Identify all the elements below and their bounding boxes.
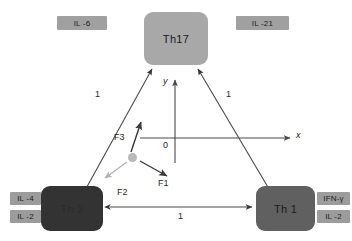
- cytokine-il2-right-label: IL -2: [325, 212, 342, 221]
- cytokine-il21-label: IL -21: [252, 19, 273, 28]
- node-th1[interactable]: Th 1: [256, 186, 315, 231]
- edge-label-th1-th17: 1: [226, 89, 231, 99]
- vector-label-f3: F3: [114, 132, 125, 142]
- axis-origin-label: 0: [163, 140, 168, 150]
- cytokine-il21: IL -21: [236, 16, 289, 30]
- cytokine-il4: IL -4: [10, 192, 41, 205]
- vector-label-f1-text: F1: [158, 178, 169, 188]
- node-th1-label: Th 1: [274, 203, 297, 215]
- axis-label-x: x: [296, 130, 301, 140]
- cytokine-ifn-gamma: IFN-γ: [317, 192, 350, 205]
- vector-f2: [105, 162, 127, 178]
- vector-label-f2-text: F2: [117, 187, 128, 197]
- edge-label-th2-th1: 1: [178, 211, 183, 221]
- cytokine-il6-label: IL -6: [74, 19, 91, 28]
- cytokine-il2-left-label: IL -2: [17, 212, 34, 221]
- cytokine-il6: IL -6: [57, 16, 107, 30]
- vector-label-f3-text: F3: [114, 132, 125, 142]
- cytokine-ifn-gamma-label: IFN-γ: [323, 194, 344, 203]
- axis-x-text: x: [296, 130, 301, 140]
- cytokine-il2-right: IL -2: [317, 210, 350, 223]
- axis-origin-text: 0: [163, 140, 168, 150]
- node-th2[interactable]: Th 2: [41, 186, 103, 231]
- cytokine-il2-left: IL -2: [10, 210, 41, 223]
- edge-label-th2-th17: 1: [95, 89, 100, 99]
- axis-label-y: y: [163, 76, 168, 86]
- cytokine-il4-label: IL -4: [17, 194, 34, 203]
- vector-label-f1: F1: [158, 178, 169, 188]
- vector-f3: [131, 122, 141, 152]
- node-th17-label: Th17: [163, 33, 189, 45]
- edge-label-th2-th1-text: 1: [178, 211, 183, 221]
- state-dot: [128, 153, 137, 162]
- edge-label-th2-th17-text: 1: [95, 89, 100, 99]
- axis-y-text: y: [163, 76, 168, 86]
- edge-label-th1-th17-text: 1: [226, 89, 231, 99]
- node-th2-label: Th 2: [60, 203, 83, 215]
- edge-th1-th17: [198, 69, 272, 194]
- diagram-canvas: Th17 Th 2 Th 1 IL -6 IL -21 IL -4 IL -2 …: [0, 0, 352, 241]
- node-th17[interactable]: Th17: [144, 12, 208, 65]
- vector-label-f2: F2: [117, 187, 128, 197]
- vector-f1: [140, 161, 167, 176]
